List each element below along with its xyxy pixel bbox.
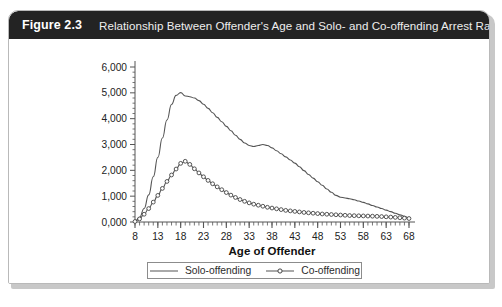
- x-axis-tick-label: 48: [312, 231, 324, 242]
- series-marker: [407, 217, 411, 221]
- series-marker: [224, 191, 228, 195]
- figure-caption: Relationship Between Offender's Age and …: [99, 19, 490, 32]
- x-axis-tick-label: 23: [198, 231, 210, 242]
- figure-body: 0,0001,0002,0003,0004,0005,0006,00081318…: [9, 39, 490, 284]
- series-marker: [261, 204, 265, 208]
- series-marker: [371, 214, 375, 218]
- series-marker: [266, 205, 270, 209]
- line-chart: 0,0001,0002,0003,0004,0005,0006,00081318…: [9, 39, 490, 284]
- series-marker: [339, 213, 343, 217]
- y-axis-tick-label: 5,000: [102, 87, 128, 98]
- y-axis-tick-label: 0,000: [102, 217, 128, 228]
- series-marker: [325, 212, 329, 216]
- series-marker: [279, 208, 283, 212]
- series-marker: [197, 171, 201, 175]
- series-marker: [393, 216, 397, 220]
- x-axis-tick-label: 28: [221, 231, 233, 242]
- series-marker: [288, 209, 292, 213]
- series-marker: [247, 201, 251, 205]
- series-marker: [215, 185, 219, 189]
- series-marker: [380, 215, 384, 219]
- series-marker: [151, 200, 155, 204]
- series-marker: [183, 159, 187, 163]
- series-marker: [147, 207, 151, 211]
- series-marker: [348, 214, 352, 218]
- series-marker: [156, 193, 160, 197]
- x-axis-tick-label: 33: [243, 231, 255, 242]
- figure-card: Figure 2.3 Relationship Between Offender…: [8, 10, 490, 284]
- series-marker: [211, 182, 215, 186]
- figure-header: Figure 2.3 Relationship Between Offender…: [9, 11, 490, 39]
- x-axis-tick-label: 68: [403, 231, 415, 242]
- series-marker: [270, 206, 274, 210]
- series-marker: [357, 214, 361, 218]
- y-axis-tick-label: 6,000: [102, 62, 128, 73]
- series-marker: [188, 162, 192, 166]
- series-marker: [138, 217, 142, 221]
- series-marker: [352, 214, 356, 218]
- series-marker: [284, 208, 288, 212]
- x-axis-tick-label: 8: [132, 231, 138, 242]
- series-marker: [252, 202, 256, 206]
- series-marker: [375, 214, 379, 218]
- series-marker: [234, 196, 238, 200]
- series-marker: [403, 216, 407, 220]
- y-axis-tick-label: 3,000: [102, 139, 128, 150]
- series-marker: [343, 213, 347, 217]
- figure-container: Figure 2.3 Relationship Between Offender…: [8, 10, 492, 287]
- series-marker: [275, 207, 279, 211]
- series-marker: [384, 215, 388, 219]
- series-marker: [192, 167, 196, 171]
- x-axis-tick-label: 53: [335, 231, 347, 242]
- series-marker: [206, 179, 210, 183]
- legend-line-swatch-solo: [149, 266, 179, 276]
- chart-legend: Solo-offending Co-offending: [147, 262, 362, 279]
- series-marker: [329, 213, 333, 217]
- figure-number: Figure 2.3: [22, 18, 82, 32]
- series-marker: [311, 211, 315, 215]
- series-marker: [165, 180, 169, 184]
- series-marker: [220, 188, 224, 192]
- series-marker: [366, 214, 370, 218]
- series-marker: [142, 212, 146, 216]
- series-marker: [316, 212, 320, 216]
- legend-item-co-offending: Co-offending: [265, 265, 360, 276]
- x-axis-title: Age of Offender: [229, 245, 316, 257]
- series-marker: [307, 211, 311, 215]
- x-axis-tick-label: 13: [152, 231, 164, 242]
- legend-item-solo-offending: Solo-offending: [149, 265, 251, 276]
- series-marker: [256, 203, 260, 207]
- y-axis-tick-label: 2,000: [102, 165, 128, 176]
- series-marker: [398, 216, 402, 220]
- series-marker: [361, 214, 365, 218]
- series-marker: [293, 210, 297, 214]
- series-marker: [170, 173, 174, 177]
- series-marker: [243, 199, 247, 203]
- series-marker: [389, 215, 393, 219]
- series-marker: [320, 212, 324, 216]
- series-marker: [298, 210, 302, 214]
- y-axis-tick-label: 1,000: [102, 191, 128, 202]
- series-marker: [302, 211, 306, 215]
- chart-plot-area: 0,0001,0002,0003,0004,0005,0006,00081318…: [9, 39, 490, 284]
- legend-label-co-offending: Co-offending: [301, 265, 360, 276]
- series-marker: [174, 167, 178, 171]
- y-axis-tick-label: 4,000: [102, 113, 128, 124]
- x-axis-tick-label: 63: [380, 231, 392, 242]
- series-marker: [229, 193, 233, 197]
- x-axis-tick-label: 18: [175, 231, 187, 242]
- x-axis-tick-label: 38: [266, 231, 278, 242]
- series-marker: [161, 187, 165, 191]
- legend-label-solo-offending: Solo-offending: [185, 265, 251, 276]
- x-axis-tick-label: 58: [358, 231, 370, 242]
- legend-line-swatch-co: [265, 266, 295, 276]
- series-line-solo-offending: [135, 93, 409, 222]
- series-marker: [238, 198, 242, 202]
- series-marker: [202, 175, 206, 179]
- series-marker: [179, 161, 183, 165]
- series-marker: [334, 213, 338, 217]
- series-marker: [133, 220, 137, 224]
- x-axis-tick-label: 43: [289, 231, 301, 242]
